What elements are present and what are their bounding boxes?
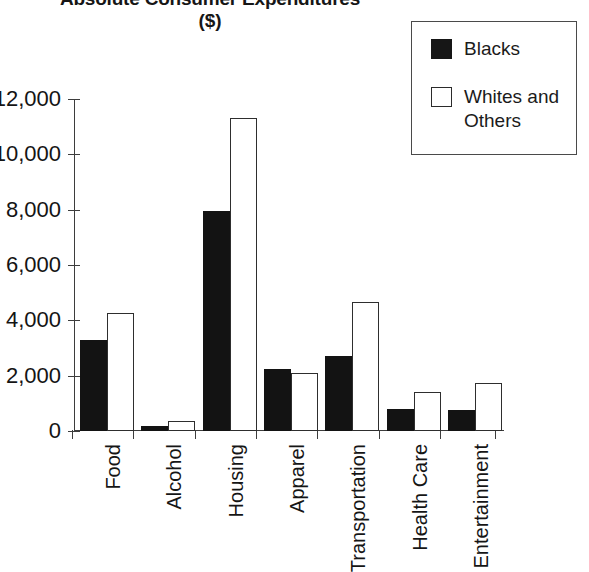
y-axis-tick: 0 [68, 431, 80, 432]
y-axis-tick: 2,000 [68, 376, 80, 377]
y-axis-tick: 12,000 [68, 99, 80, 100]
y-axis-tick-label: 12,000 [0, 88, 61, 110]
x-axis-label: Food [103, 444, 123, 490]
x-axis-tick [133, 430, 134, 439]
bar [107, 313, 134, 431]
y-axis-tick-label: 10,000 [0, 143, 61, 165]
plot-area: 02,0004,0006,0008,00010,00012,000 FoodAl… [74, 99, 504, 431]
bar [414, 392, 441, 431]
legend-entry-blacks: Blacks [431, 37, 520, 61]
x-axis-tick [256, 430, 257, 439]
x-axis-label: Health Care [410, 444, 430, 551]
x-axis-label: Apparel [287, 444, 307, 513]
bar [448, 410, 475, 431]
y-axis-tick: 8,000 [68, 210, 80, 211]
legend-label: Blacks [464, 37, 520, 61]
x-axis-tick [195, 430, 196, 439]
y-axis-tick-label: 8,000 [6, 199, 61, 221]
y-axis-tick: 10,000 [68, 154, 80, 155]
bar [230, 118, 257, 431]
x-axis-tick [72, 430, 73, 439]
bar [291, 373, 318, 431]
y-axis-tick-label: 4,000 [6, 309, 61, 331]
y-axis-tick-label: 6,000 [6, 254, 61, 276]
bar [203, 211, 230, 431]
bar [352, 302, 379, 431]
x-axis-tick [440, 430, 441, 439]
x-axis-label: Housing [226, 444, 246, 517]
bar [387, 409, 414, 431]
x-axis-tick [317, 430, 318, 439]
y-axis-tick: 4,000 [68, 320, 80, 321]
x-axis-label: Alcohol [164, 444, 184, 510]
x-axis-tick [495, 430, 496, 439]
y-axis-tick: 6,000 [68, 265, 80, 266]
bar [168, 421, 195, 431]
filled-square-icon [431, 39, 452, 59]
x-axis-label: Entertainment [471, 444, 491, 569]
bar [141, 426, 168, 431]
y-axis-tick-label: 2,000 [6, 365, 61, 387]
y-axis-tick-label: 0 [49, 420, 61, 442]
bar [264, 369, 291, 431]
bar [325, 356, 352, 431]
x-axis-tick [379, 430, 380, 439]
x-axis-label: Transportation [348, 444, 368, 572]
bar [80, 340, 107, 431]
chart-subtitle: ($) [0, 9, 420, 32]
bar [475, 383, 502, 431]
